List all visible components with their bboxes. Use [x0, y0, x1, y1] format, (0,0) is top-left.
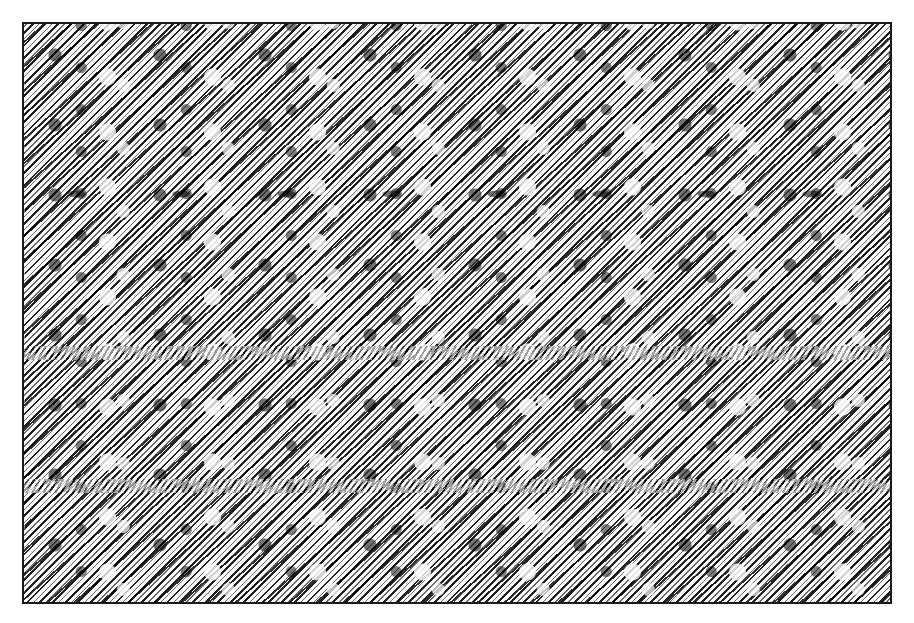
repeating-dark-motif-row — [24, 174, 890, 214]
horizontal-texture-band — [24, 346, 890, 360]
repeating-blotch-pattern — [22, 22, 892, 604]
stereogram-frame — [22, 22, 892, 604]
horizontal-texture-band-lower — [24, 479, 890, 493]
